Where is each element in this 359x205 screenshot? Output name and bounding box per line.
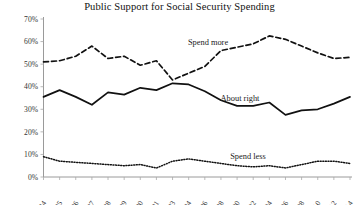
- x-tick-label: 2014: [339, 199, 355, 205]
- x-tick-label: 1993: [161, 199, 177, 205]
- annotation-spend-less: Spend less: [230, 152, 266, 161]
- chart-canvas: 0%10%20%30%40%50%60%70% 1984198519861987…: [0, 0, 359, 205]
- series-lines: [44, 36, 351, 168]
- x-tick-label: 2012: [323, 199, 339, 205]
- x-tick-label: 1990: [129, 199, 145, 205]
- y-tick-label: 50%: [24, 60, 39, 69]
- x-tick-label: 1984: [32, 199, 48, 205]
- x-tick-label: 1985: [49, 199, 65, 205]
- x-tick-label: 1988: [97, 199, 113, 205]
- x-tick-label: 1996: [194, 199, 210, 205]
- y-tick-label: 40%: [24, 82, 39, 91]
- y-tick-label: 10%: [24, 150, 39, 159]
- x-tick-label: 2004: [258, 199, 274, 205]
- x-tick-label: 2006: [274, 199, 290, 205]
- x-tick-label: 2010: [307, 199, 323, 205]
- y-tick-label: 70%: [24, 15, 39, 24]
- x-tick-label: 1994: [178, 199, 194, 205]
- x-tick-label: 1989: [113, 199, 129, 205]
- x-tick-label: 1991: [145, 199, 161, 205]
- series-line-spend-less: [44, 157, 351, 168]
- plot-area: 0%10%20%30%40%50%60%70% 1984198519861987…: [0, 0, 359, 205]
- y-axis: 0%10%20%30%40%50%60%70%: [24, 15, 43, 182]
- y-tick-label: 0%: [28, 173, 39, 182]
- y-tick-label: 20%: [24, 128, 39, 137]
- x-tick-label: 2008: [291, 199, 307, 205]
- x-tick-label: 1998: [210, 199, 226, 205]
- chart-figure: Public Support for Social Security Spend…: [0, 0, 359, 205]
- series-annotations: Spend moreAbout rightSpend less: [188, 38, 266, 161]
- x-tick-label: 1986: [65, 199, 81, 205]
- annotation-about-right: About right: [221, 94, 261, 103]
- x-tick-label: 2000: [226, 199, 242, 205]
- series-line-about-right: [44, 83, 351, 115]
- x-tick-label: 2002: [242, 199, 258, 205]
- annotation-spend-more: Spend more: [188, 38, 229, 47]
- x-axis: 1984198519861987198819891990199119931994…: [32, 177, 354, 205]
- y-tick-label: 30%: [24, 105, 39, 114]
- y-tick-label: 60%: [24, 37, 39, 46]
- x-tick-label: 1987: [81, 199, 97, 205]
